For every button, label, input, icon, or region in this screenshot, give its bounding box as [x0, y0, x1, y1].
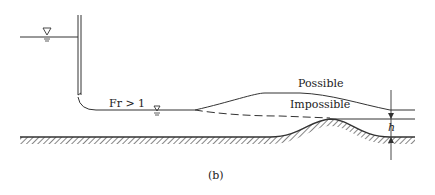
impossible-label: Impossible — [290, 98, 350, 111]
possible-label: Possible — [298, 77, 343, 90]
impossible-surface-curve — [195, 110, 330, 118]
channel-bed-hatch — [20, 119, 415, 144]
flow-over-bump-diagram: Fr > 1 Possible Impossible h (b) — [0, 0, 435, 195]
water-surface-icon — [43, 28, 51, 41]
bump-height-label: h — [388, 121, 395, 134]
sluice-gate — [78, 15, 81, 95]
figure-caption: (b) — [208, 169, 224, 182]
froude-label: Fr > 1 — [109, 97, 145, 110]
